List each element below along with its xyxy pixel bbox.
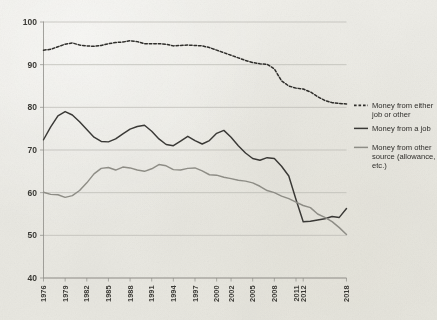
y-axis-tick-label: 70	[28, 145, 38, 155]
y-axis-tick-label: 40	[28, 273, 38, 283]
chart-legend: Money from eitherjob or otherMoney from …	[354, 101, 435, 170]
x-axis-tick-label: 1988	[126, 286, 135, 302]
x-axis-tick-label: 2008	[270, 286, 279, 302]
gridlines	[40, 22, 347, 278]
x-axis-tick-labels: 1976197919821985198819911994199720002002…	[39, 278, 351, 302]
x-axis-tick-label: 1997	[191, 286, 200, 302]
y-axis-tick-labels: 405060708090100	[23, 17, 37, 283]
legend-label-2: Money from a job	[372, 124, 431, 133]
y-axis-tick-label: 50	[28, 230, 38, 240]
x-axis-tick-label: 2018	[342, 286, 351, 302]
data-series	[44, 41, 347, 235]
x-axis-tick-label: 2005	[248, 286, 257, 302]
legend-label-1: Money from eitherjob or other	[371, 101, 434, 119]
y-axis-tick-label: 60	[28, 188, 38, 198]
y-axis-tick-label: 100	[23, 17, 37, 27]
line-chart: 405060708090100 197619791982198519881991…	[0, 0, 437, 320]
y-axis-tick-label: 80	[28, 102, 38, 112]
chart-container: 405060708090100 197619791982198519881991…	[0, 0, 437, 320]
series-line-3	[44, 165, 347, 235]
x-axis-tick-label: 1982	[82, 286, 91, 302]
legend-label-3: Money from othersource (allowance,etc.)	[372, 143, 435, 170]
x-axis-tick-label: 2002	[227, 286, 236, 302]
y-axis-tick-label: 90	[28, 60, 38, 70]
x-axis-tick-label: 2012	[299, 286, 308, 302]
series-line-1	[44, 41, 347, 104]
x-axis-tick-label: 1985	[104, 286, 113, 302]
x-axis-tick-label: 1994	[169, 285, 178, 302]
x-axis-tick-label: 1991	[147, 286, 156, 302]
x-axis-tick-label: 1979	[61, 286, 70, 302]
x-axis-tick-label: 1976	[39, 286, 48, 302]
x-axis-tick-label: 2000	[212, 286, 221, 302]
